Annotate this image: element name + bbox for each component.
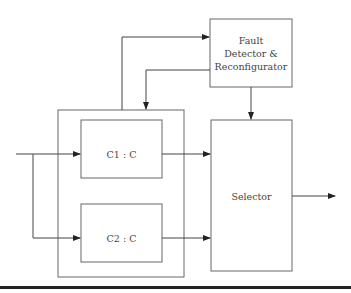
c1-label: C1 : C [107, 149, 137, 160]
selector-label: Selector [231, 191, 272, 202]
redundant-container [58, 110, 184, 277]
fault-label-line1: Fault [239, 35, 264, 46]
selector-block: Selector [211, 120, 292, 271]
container-to-fault-arrow [122, 37, 209, 110]
fault-label-line3: Reconfigurator [215, 61, 288, 72]
c2-block: C2 : C [81, 204, 162, 262]
fault-to-container-arrow [146, 70, 210, 109]
input-to-c2-arrow [33, 154, 80, 238]
fault-label-line2: Detector & [224, 48, 278, 59]
c1-block: C1 : C [81, 120, 162, 178]
c2-label: C2 : C [107, 233, 137, 244]
redundancy-diagram: Fault Detector & Reconfigurator C1 : C C… [0, 0, 351, 293]
fault-detector-block: Fault Detector & Reconfigurator [210, 19, 292, 87]
bottom-rule [0, 286, 351, 289]
